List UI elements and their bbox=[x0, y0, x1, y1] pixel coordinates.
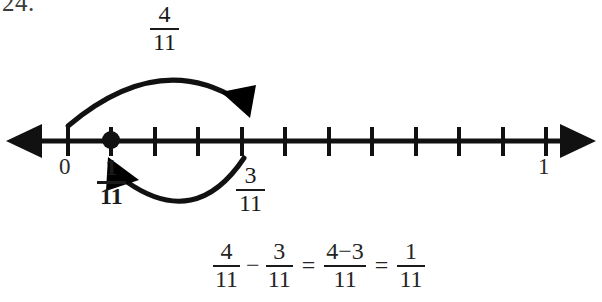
fraction-numerator: 3 bbox=[236, 163, 265, 188]
fraction-denominator: 11 bbox=[97, 181, 126, 209]
fraction-numerator: 4−3 bbox=[324, 239, 366, 264]
equation-equals-2: = bbox=[366, 252, 398, 279]
fraction-one-eleventh: 1 11 bbox=[97, 155, 126, 209]
equation-minus-operator: − bbox=[240, 252, 266, 279]
fraction-numerator: 4 bbox=[150, 2, 179, 27]
point-marker-dot bbox=[102, 131, 120, 149]
fraction-three-elevenths: 3 11 bbox=[236, 163, 265, 216]
equation-term-4: 1 11 bbox=[397, 239, 424, 292]
fraction-numerator: 1 bbox=[397, 239, 424, 264]
fraction-denominator: 11 bbox=[266, 265, 293, 292]
upper-arc-label: 4 11 bbox=[150, 2, 179, 55]
number-line-label-zero: 0 bbox=[59, 154, 71, 180]
fraction-numerator: 4 bbox=[213, 239, 240, 264]
fraction-denominator: 11 bbox=[213, 265, 240, 292]
fraction-denominator: 11 bbox=[324, 265, 366, 292]
fraction-denominator: 11 bbox=[150, 28, 179, 55]
equation-term-1: 4 11 bbox=[213, 239, 240, 292]
fraction-denominator: 11 bbox=[397, 265, 424, 292]
upper-arc-curve bbox=[68, 80, 238, 126]
upper-arc-arrowhead bbox=[221, 85, 256, 118]
lower-arc-label: 3 11 bbox=[236, 163, 265, 216]
fraction-four-elevenths: 4 11 bbox=[150, 2, 179, 55]
equation-equals-1: = bbox=[293, 252, 325, 279]
fraction-numerator: 3 bbox=[266, 239, 293, 264]
fraction-denominator: 11 bbox=[236, 189, 265, 216]
number-line-label-one: 1 bbox=[538, 154, 550, 180]
result-point-label: 1 11 bbox=[97, 155, 126, 209]
axis-left-arrowhead bbox=[6, 124, 42, 158]
equation: 4 11 − 3 11 = 4−3 11 = 1 11 bbox=[213, 239, 425, 292]
equation-term-2: 3 11 bbox=[266, 239, 293, 292]
axis-right-arrowhead bbox=[560, 124, 596, 158]
equation-term-3: 4−3 11 bbox=[324, 239, 366, 292]
fraction-numerator: 1 bbox=[97, 155, 126, 180]
lower-arc-curve bbox=[127, 158, 244, 201]
worksheet-figure: 24. bbox=[0, 0, 602, 302]
